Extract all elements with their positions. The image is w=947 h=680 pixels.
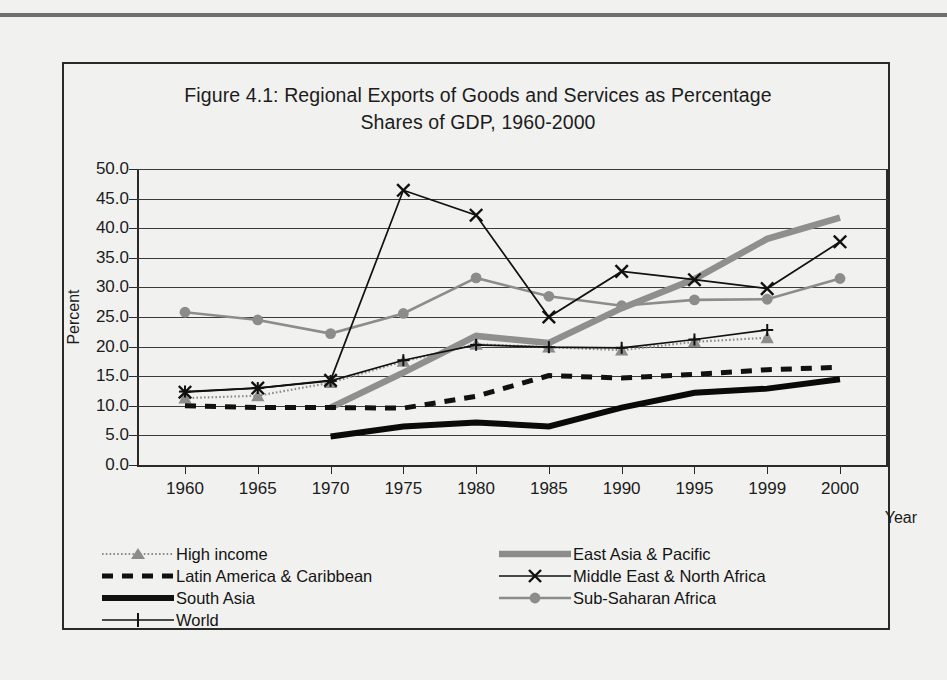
legend-swatch [497, 545, 573, 563]
legend-swatch [100, 567, 176, 585]
series-sub-saharan-africa [180, 273, 846, 339]
x-tick-label: 1990 [603, 479, 641, 499]
legend-label: Latin America & Caribbean [176, 567, 372, 585]
x-tick-label: 1970 [312, 479, 350, 499]
x-tick-mark [331, 465, 332, 474]
y-tick-label: 15.0 [96, 366, 129, 386]
chart-title-line-2: Shares of GDP, 1960-2000 [104, 109, 852, 136]
x-tick-label: 1980 [457, 479, 495, 499]
data-point-marker [180, 307, 191, 318]
chart-title: Figure 4.1: Regional Exports of Goods an… [104, 82, 852, 136]
chart-title-line-1: Figure 4.1: Regional Exports of Goods an… [104, 82, 852, 109]
y-tick-label: 0.0 [105, 455, 129, 475]
x-tick-label: 2000 [821, 479, 859, 499]
legend-swatch [100, 589, 176, 607]
x-tick-label: 1960 [166, 479, 204, 499]
y-tick-mark [129, 228, 137, 229]
y-tick-label: 25.0 [96, 307, 129, 327]
x-axis-label: Year [885, 509, 917, 527]
x-tick-mark [403, 465, 404, 474]
legend-item[interactable]: World [100, 609, 372, 630]
legend-label: World [176, 611, 219, 629]
legend-swatch [100, 545, 176, 563]
data-point-marker [689, 294, 700, 305]
legend-swatch [497, 589, 573, 607]
y-axis-label: Percent [65, 289, 83, 344]
y-tick-label: 35.0 [96, 248, 129, 268]
x-axis-line [137, 465, 888, 467]
data-point-marker [325, 328, 336, 339]
y-tick-mark [129, 465, 137, 466]
legend-swatch-icon [497, 589, 573, 607]
x-tick-mark [185, 465, 186, 474]
legend-label: Middle East & North Africa [573, 567, 766, 585]
data-point-marker [398, 308, 409, 319]
data-point-marker [762, 294, 773, 305]
series-middle-east-north-africa [179, 184, 846, 398]
legend-swatch [497, 567, 573, 585]
legend-item[interactable]: South Asia [100, 587, 372, 608]
circle-marker-icon [530, 592, 541, 603]
x-tick-mark [258, 465, 259, 474]
data-point-marker [252, 315, 263, 326]
legend-label: East Asia & Pacific [573, 545, 711, 563]
page-top-rule [0, 13, 947, 17]
y-tick-mark [129, 406, 137, 407]
legend-column-right: East Asia & PacificMiddle East & North A… [497, 543, 766, 609]
legend-item[interactable]: High income [100, 543, 372, 564]
legend-label: South Asia [176, 589, 255, 607]
x-tick-mark [840, 465, 841, 474]
y-tick-label: 30.0 [96, 277, 129, 297]
x-tick-mark [694, 465, 695, 474]
y-tick-mark [129, 317, 137, 318]
legend-item[interactable]: Sub-Saharan Africa [497, 587, 766, 608]
y-tick-label: 45.0 [96, 189, 129, 209]
legend-swatch-icon [497, 545, 573, 563]
screenshot-page: Figure 4.1: Regional Exports of Goods an… [0, 0, 947, 680]
legend-label: High income [176, 545, 268, 563]
x-tick-label: 1965 [239, 479, 277, 499]
legend-item[interactable]: Middle East & North Africa [497, 565, 766, 586]
y-tick-mark [129, 258, 137, 259]
x-tick-label: 1999 [748, 479, 786, 499]
y-tick-label: 5.0 [105, 425, 129, 445]
y-tick-mark [129, 199, 137, 200]
y-tick-mark [129, 435, 137, 436]
y-tick-label: 20.0 [96, 337, 129, 357]
x-tick-label: 1985 [530, 479, 568, 499]
x-tick-mark [622, 465, 623, 474]
legend-swatch-icon [100, 567, 176, 585]
x-tick-mark [767, 465, 768, 474]
y-tick-mark [129, 376, 137, 377]
legend-swatch-icon [100, 545, 176, 563]
y-tick-label: 10.0 [96, 396, 129, 416]
legend-swatch-icon [100, 589, 176, 607]
legend-item[interactable]: East Asia & Pacific [497, 543, 766, 564]
series-overlay [137, 169, 888, 465]
legend-swatch-icon [497, 567, 573, 585]
x-tick-mark [476, 465, 477, 474]
legend-item[interactable]: Latin America & Caribbean [100, 565, 372, 586]
legend-swatch-icon [100, 611, 176, 629]
y-tick-label: 40.0 [96, 218, 129, 238]
legend-swatch [100, 611, 176, 629]
x-tick-label: 1995 [676, 479, 714, 499]
data-point-marker [543, 291, 554, 302]
x-tick-label: 1975 [384, 479, 422, 499]
legend-column-left: High incomeLatin America & CaribbeanSout… [100, 543, 372, 631]
chart-legend: High incomeLatin America & CaribbeanSout… [100, 543, 860, 625]
x-tick-mark [549, 465, 550, 474]
legend-label: Sub-Saharan Africa [573, 589, 716, 607]
y-tick-mark [129, 287, 137, 288]
y-tick-mark [129, 169, 137, 170]
y-tick-mark [129, 347, 137, 348]
data-point-marker [835, 273, 846, 284]
series-line [185, 190, 840, 392]
data-point-marker [471, 273, 482, 284]
y-tick-label: 50.0 [96, 159, 129, 179]
